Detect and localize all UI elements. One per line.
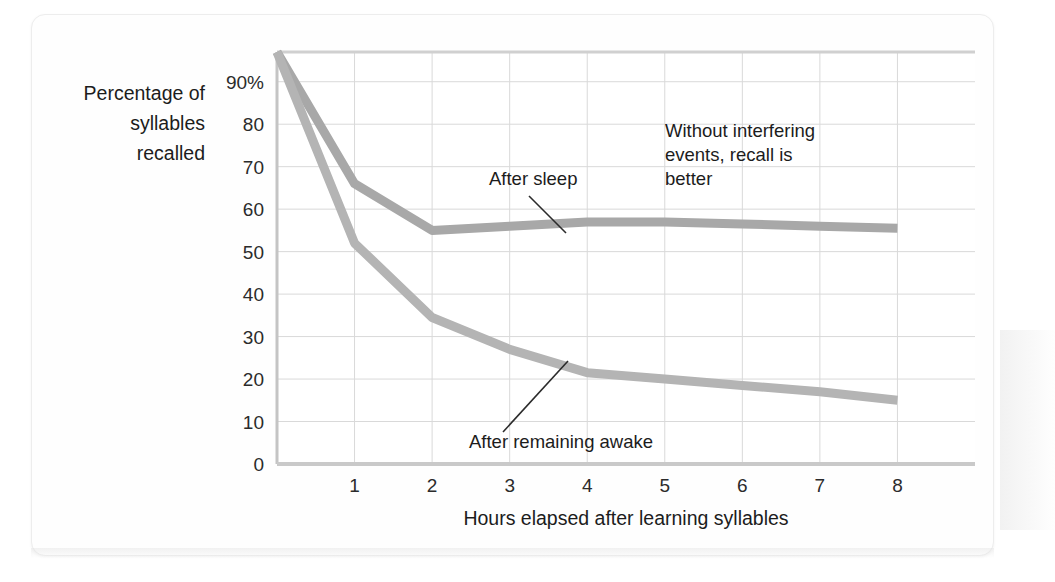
x-tick-label-1: 1 [349, 475, 360, 496]
x-tick-label-2: 2 [427, 475, 438, 496]
x-tick-label-5: 5 [659, 475, 670, 496]
x-tick-label-4: 4 [582, 475, 593, 496]
y-axis-title-line-3: recalled [137, 142, 205, 164]
y-tick-label-10: 10 [243, 412, 264, 433]
x-axis-tick-labels: 12345678 [349, 475, 902, 496]
annotation-without-interfering-line-3: better [665, 168, 712, 189]
y-tick-label-0: 0 [253, 454, 264, 475]
y-tick-label-40: 40 [243, 284, 264, 305]
y-tick-label-90: 90% [226, 72, 264, 93]
y-axis-title-line-2: syllables [130, 112, 205, 134]
x-tick-label-7: 7 [815, 475, 826, 496]
y-tick-label-20: 20 [243, 369, 264, 390]
y-tick-label-80: 80 [243, 114, 264, 135]
annotation-without-interfering-line-1: Without interfering [665, 120, 815, 141]
y-axis-tick-labels: 90%80706050403020100 [226, 72, 264, 475]
annotation-after-sleep-label: After sleep [489, 168, 577, 189]
y-tick-label-30: 30 [243, 327, 264, 348]
plot-area [277, 52, 975, 464]
line-chart: 90%80706050403020100 12345678 Percentage… [0, 0, 1055, 582]
annotation-without-interfering-line-2: events, recall is [665, 144, 793, 165]
y-tick-label-50: 50 [243, 242, 264, 263]
y-tick-label-60: 60 [243, 199, 264, 220]
y-axis-title-line-1: Percentage of [84, 82, 206, 104]
annotation-after-remaining-awake-label: After remaining awake [469, 431, 653, 452]
x-tick-label-6: 6 [737, 475, 748, 496]
y-tick-label-70: 70 [243, 157, 264, 178]
y-axis-title: Percentage of syllables recalled [84, 82, 206, 164]
x-axis-title: Hours elapsed after learning syllables [463, 507, 788, 529]
x-tick-label-3: 3 [504, 475, 515, 496]
x-tick-label-8: 8 [892, 475, 903, 496]
